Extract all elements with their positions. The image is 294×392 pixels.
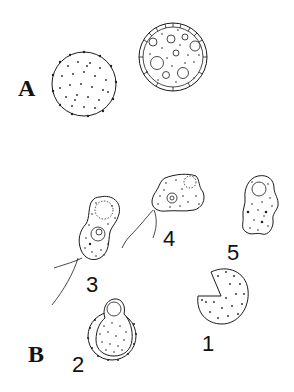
stage-3-label: 3 bbox=[86, 272, 98, 297]
stage-1-label: 1 bbox=[202, 331, 214, 356]
stage-4-label: 4 bbox=[163, 226, 175, 251]
figure-illustration: A bbox=[0, 0, 294, 392]
stage-5-amoeba-icon bbox=[243, 176, 279, 235]
cyst-spiny-icon bbox=[52, 51, 117, 117]
stage-5-label: 5 bbox=[227, 240, 239, 265]
panel-label-a: A bbox=[18, 75, 36, 101]
panel-label-b: B bbox=[28, 341, 44, 367]
stage-2-excystation-icon bbox=[87, 299, 137, 361]
stage-1-notched-cell-icon bbox=[198, 269, 248, 324]
stage-2-label: 2 bbox=[72, 352, 84, 377]
cyst-walled-icon bbox=[139, 23, 207, 91]
